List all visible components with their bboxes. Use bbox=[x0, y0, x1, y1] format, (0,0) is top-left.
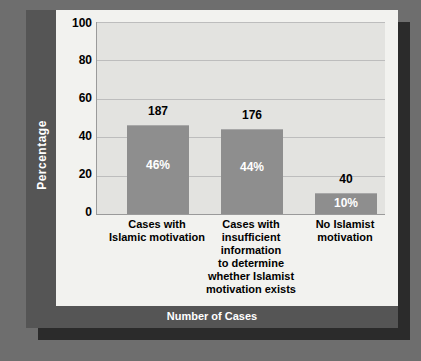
bar-islamic-motivation[interactable]: 46% bbox=[127, 125, 189, 214]
bar-count-1: 176 bbox=[221, 108, 283, 122]
x-axis-title: Number of Cases bbox=[26, 310, 398, 322]
bar-value-label-1: 44% bbox=[221, 160, 283, 174]
category-1-line-2: information bbox=[200, 244, 302, 257]
gridline-80 bbox=[97, 60, 385, 61]
category-2-line-0: No Islamist bbox=[300, 218, 390, 231]
category-1-line-5: motivation exists bbox=[200, 283, 302, 296]
y-tick-100: 100 bbox=[58, 16, 92, 30]
bar-value-label-2: 10% bbox=[315, 196, 377, 210]
category-label-2: No Islamist motivation bbox=[300, 218, 390, 244]
category-1-line-1: insufficient bbox=[200, 231, 302, 244]
category-1-line-0: Cases with bbox=[200, 218, 302, 231]
y-tick-40: 40 bbox=[58, 129, 92, 143]
bar-value-label-0: 46% bbox=[127, 158, 189, 172]
category-1-line-3: to determine bbox=[200, 257, 302, 270]
gridline-60 bbox=[97, 99, 385, 100]
bar-no-islamist-motivation[interactable]: 10% bbox=[315, 193, 377, 214]
category-label-0: Cases with Islamic motivation bbox=[102, 218, 212, 244]
bar-insufficient-information[interactable]: 44% bbox=[221, 129, 283, 214]
x-axis-band: Number of Cases bbox=[26, 306, 398, 328]
category-label-1: Cases with insufficient information to d… bbox=[200, 218, 302, 296]
chart-root: Percentage 100 80 60 40 20 0 46% 44% 10%… bbox=[0, 0, 421, 361]
plot-area: 46% 44% 10% 187 176 40 bbox=[96, 22, 385, 215]
y-tick-0: 0 bbox=[58, 205, 92, 219]
x-axis-categories: Cases with Islamic motivation Cases with… bbox=[96, 218, 384, 304]
gridline-100 bbox=[97, 22, 385, 23]
category-0-line-1: Islamic motivation bbox=[102, 231, 212, 244]
y-axis-band: Percentage bbox=[26, 10, 56, 328]
y-tick-20: 20 bbox=[58, 167, 92, 181]
y-axis-title: Percentage bbox=[35, 55, 49, 255]
y-axis-ticks: 100 80 60 40 20 0 bbox=[56, 0, 92, 240]
category-1-line-4: whether Islamist bbox=[200, 270, 302, 283]
y-tick-60: 60 bbox=[58, 91, 92, 105]
y-tick-80: 80 bbox=[58, 53, 92, 67]
bar-count-0: 187 bbox=[127, 104, 189, 118]
bar-count-2: 40 bbox=[315, 172, 377, 186]
category-0-line-0: Cases with bbox=[102, 218, 212, 231]
category-2-line-1: motivation bbox=[300, 231, 390, 244]
